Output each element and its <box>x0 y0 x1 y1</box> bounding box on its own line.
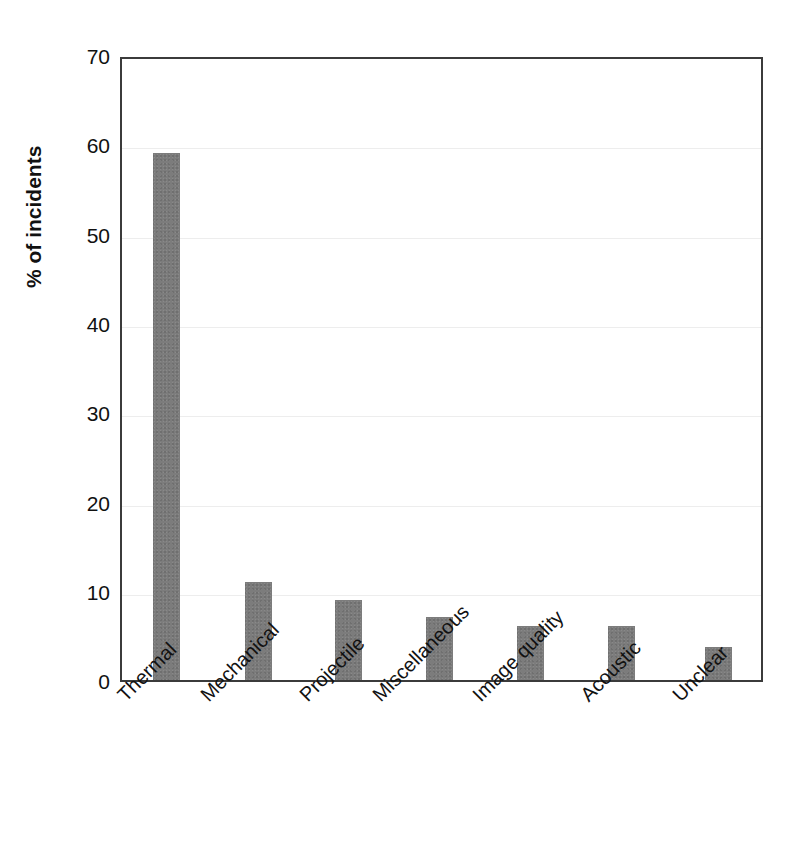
y-tick-label: 0 <box>52 670 110 694</box>
bar-thermal <box>153 153 180 680</box>
y-tick-label: 60 <box>52 134 110 158</box>
gridline-10 <box>122 595 761 596</box>
plot-area <box>120 57 763 682</box>
bar-miscellaneous <box>426 617 453 680</box>
gridline-30 <box>122 416 761 417</box>
bar-image-quality <box>517 626 544 680</box>
y-tick-label: 50 <box>52 224 110 248</box>
y-tick-label: 20 <box>52 492 110 516</box>
bar-chart-figure: % of incidents 0 10 20 30 40 50 60 70 Th… <box>0 0 807 852</box>
bar-projectile <box>335 600 362 680</box>
bar-unclear <box>705 647 732 680</box>
gridline-60 <box>122 148 761 149</box>
y-tick-label: 70 <box>52 45 110 69</box>
y-tick-label: 10 <box>52 581 110 605</box>
gridline-40 <box>122 327 761 328</box>
gridline-20 <box>122 506 761 507</box>
y-axis-title: % of incidents <box>22 68 50 288</box>
bar-mechanical <box>245 582 272 680</box>
y-tick-label: 30 <box>52 402 110 426</box>
y-tick-label: 40 <box>52 313 110 337</box>
gridline-50 <box>122 238 761 239</box>
bar-acoustic <box>608 626 635 680</box>
